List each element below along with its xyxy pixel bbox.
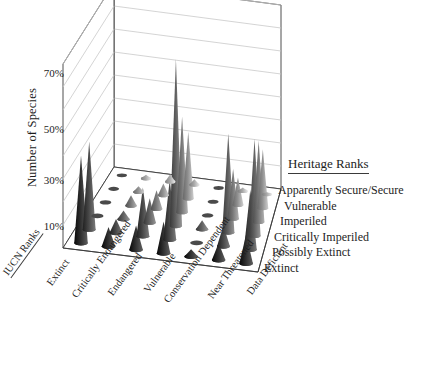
y-tick-50: 50% <box>20 123 64 135</box>
y-tick-30: 30% <box>20 174 64 186</box>
legend-item-imperiled: Imperiled <box>280 214 404 230</box>
chart-figure: Number of Species 70% 50% 30% 10% IUCN R… <box>0 0 435 388</box>
legend-item-critically-imperiled: Critically Imperiled <box>274 230 404 246</box>
y-axis-title: Number of Species <box>25 68 40 208</box>
legend-item-possibly-extinct: Possibly Extinct <box>272 245 404 261</box>
legend-title: Heritage Ranks <box>288 156 369 174</box>
legend-item-vulnerable: Vulnerable <box>284 199 404 215</box>
legend-item-extinct: Extinct <box>264 261 404 277</box>
y-tick-70: 70% <box>20 67 64 79</box>
y-tick-10: 10% <box>20 220 64 232</box>
legend: Heritage Ranks Apparently Secure/Secure … <box>282 154 404 276</box>
legend-item-apparently-secure: Apparently Secure/Secure <box>278 183 404 199</box>
